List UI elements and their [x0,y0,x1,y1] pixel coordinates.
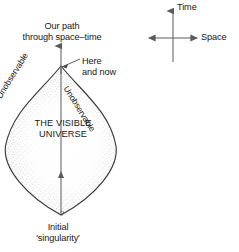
label-our-path: Our path through space–time [6,21,118,42]
visible-universe-region [0,60,130,222]
label-space-axis: Space [201,32,239,43]
label-initial-singularity: Initial 'singularity' [21,222,95,243]
label-here-and-now: Here and now [82,56,130,77]
label-singularity-question-mark: ? [56,209,68,220]
label-time-axis: Time [177,2,221,13]
here-and-now-leader [62,59,81,69]
axis-key [149,11,197,62]
spacetime-diagram: Our path through space–time Here and now… [0,0,239,252]
